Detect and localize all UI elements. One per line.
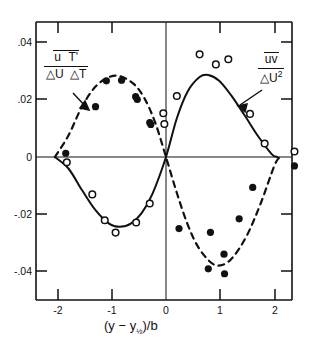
xtick-label-3: 1 <box>210 304 230 316</box>
data-point-open <box>146 200 153 207</box>
data-point-filled <box>118 77 125 84</box>
data-point-open <box>160 110 167 117</box>
data-point-filled <box>103 77 110 84</box>
data-point-filled <box>205 265 212 272</box>
heat-flux-num-t: T' <box>68 50 78 64</box>
x-axis-title-minus: − <box>118 318 126 333</box>
reynolds-stress-den-exponent: 2 <box>278 69 283 79</box>
heat-flux-den-dt: △T <box>70 67 86 81</box>
data-point-open <box>225 56 232 63</box>
x-axis-title: (y − y½)/b <box>104 318 158 336</box>
data-point-filled <box>221 270 228 277</box>
x-axis-title-open: (y <box>104 318 115 333</box>
xtick-label-4: 2 <box>265 304 285 316</box>
ytick-label-1: .02 <box>2 93 32 105</box>
annotation-leaders <box>73 90 262 112</box>
data-point-filled <box>207 229 214 236</box>
reynolds-stress-num: uv <box>265 52 278 66</box>
right-label-leader-line <box>240 90 262 105</box>
heat-flux-numerator: u T' <box>44 50 88 67</box>
ytick-label-4: -.04 <box>0 265 32 277</box>
ytick-label-3: -.02 <box>0 208 32 220</box>
reynolds-stress-overbar-group: uv <box>264 52 279 67</box>
reynolds-stress-denominator: △U2 <box>258 69 284 86</box>
reynolds-stress-label: uv △U2 <box>258 52 284 86</box>
data-point-open <box>101 217 108 224</box>
data-point-filled <box>92 103 99 110</box>
data-point-open <box>174 93 181 100</box>
right-label-leader-arrowhead <box>238 104 247 112</box>
data-point-open <box>112 229 119 236</box>
heat-flux-num-u: u <box>54 50 61 64</box>
data-curves <box>55 75 280 266</box>
data-point-open <box>196 51 203 58</box>
data-point-open <box>161 121 168 128</box>
data-point-open <box>291 148 298 155</box>
xtick-label-0: -2 <box>48 304 68 316</box>
data-point-open <box>261 140 268 147</box>
data-point-filled <box>62 150 69 157</box>
xtick-label-2: 0 <box>156 304 176 316</box>
ytick-label-2: 0 <box>2 151 32 163</box>
x-axis-title-close: )/b <box>142 318 157 333</box>
data-point-filled <box>147 121 154 128</box>
reynolds-stress-numerator: uv <box>258 52 284 69</box>
data-point-filled <box>220 251 227 258</box>
data-point-open <box>213 61 220 68</box>
data-point-open <box>89 191 96 198</box>
heat-flux-den-du: △U <box>46 67 64 81</box>
xtick-label-1: -1 <box>102 304 122 316</box>
data-point-open <box>133 219 140 226</box>
figure-container: .04 .02 0 -.02 -.04 -2 -1 0 1 2 u T' △U … <box>0 0 315 344</box>
data-point-open <box>64 159 71 166</box>
reynolds-stress-den-du: △U <box>260 71 278 85</box>
ytick-label-0: .04 <box>2 36 32 48</box>
heat-flux-overbar-group: u T' <box>53 50 79 65</box>
data-point-filled <box>236 215 243 222</box>
data-point-filled <box>175 225 182 232</box>
data-point-open <box>247 111 254 118</box>
heat-flux-label: u T' △U △T <box>44 50 88 82</box>
data-point-filled <box>291 162 298 169</box>
heat-flux-denominator: △U △T <box>44 67 88 82</box>
data-point-filled <box>249 184 256 191</box>
data-point-filled <box>134 96 141 103</box>
